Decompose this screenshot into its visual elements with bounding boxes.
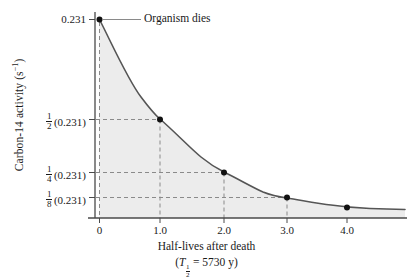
area-fill — [100, 20, 406, 219]
x-tick-label-0-text: 0 — [97, 224, 103, 236]
x-tick-label-3: 3.0 — [271, 224, 303, 236]
half-life-subscript-fraction: 12 — [186, 264, 190, 278]
data-point — [344, 205, 350, 211]
y-axis-ticks — [89, 20, 95, 198]
y-axis-title-close: ) — [13, 59, 25, 63]
y-tick-label-quarter-text: (0.231) — [54, 169, 86, 181]
y-axis-unit-exponent: −1 — [11, 63, 20, 72]
x-tick-label-4: 4.0 — [331, 224, 363, 236]
annotation-organism-dies: Organism dies — [144, 12, 211, 24]
fraction-denominator: 8 — [46, 199, 53, 209]
data-point — [221, 170, 227, 176]
x-tick-label-2-text: 2.0 — [217, 224, 231, 236]
x-axis-subtitle: (T12 = 5730 y) — [0, 256, 413, 278]
y-tick-label-top-text: 0.231 — [61, 13, 86, 25]
x-axis-subtitle-value: = 5730 y) — [190, 256, 238, 268]
x-tick-label-1: 1.0 — [144, 224, 176, 236]
data-point — [157, 117, 163, 123]
y-tick-label-quarter: 1 4 (0.231) — [18, 165, 86, 184]
fraction-one-half: 1 2 — [46, 112, 53, 131]
half-life-symbol: T — [179, 256, 185, 268]
x-tick-label-3-text: 3.0 — [280, 224, 294, 236]
x-tick-label-1-text: 1.0 — [153, 224, 167, 236]
fraction-numerator: 1 — [46, 190, 53, 199]
x-tick-label-4-text: 4.0 — [340, 224, 354, 236]
carbon-14-decay-figure: Carbon-14 activity (s−1) 0.231 1 2 (0.23… — [0, 0, 413, 278]
fraction-numerator: 1 — [186, 264, 190, 271]
fraction-denominator: 2 — [46, 121, 53, 131]
fraction-one-quarter: 1 4 — [46, 165, 53, 184]
data-point — [284, 195, 290, 201]
x-tick-label-2: 2.0 — [208, 224, 240, 236]
y-tick-label-eighth: 1 8 (0.231) — [18, 190, 86, 209]
fraction-one-eighth: 1 8 — [46, 190, 53, 209]
x-axis-title-text: Half-lives after death — [158, 240, 256, 252]
x-axis-title: Half-lives after death — [0, 240, 413, 252]
decay-plot-svg — [0, 0, 413, 278]
fraction-denominator: 4 — [46, 174, 53, 184]
fraction-numerator: 1 — [46, 112, 53, 121]
y-tick-label-half-text: (0.231) — [54, 116, 86, 128]
fraction-denominator: 2 — [186, 271, 190, 278]
y-tick-label-half: 1 2 (0.231) — [18, 112, 86, 131]
data-point — [97, 17, 103, 23]
x-axis-ticks — [100, 218, 348, 223]
y-tick-label-eighth-text: (0.231) — [54, 194, 86, 206]
fraction-numerator: 1 — [46, 165, 53, 174]
x-tick-label-0: 0 — [84, 224, 115, 236]
y-tick-label-top: 0.231 — [28, 13, 86, 25]
annotation-organism-dies-text: Organism dies — [144, 12, 211, 24]
